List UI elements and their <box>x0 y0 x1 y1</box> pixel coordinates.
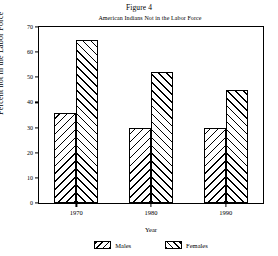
y-tick-mark <box>35 102 39 103</box>
y-axis-label: Percent not in the Labor Force <box>0 11 5 115</box>
y-tick-label: 0 <box>30 200 33 206</box>
figure-container: Figure 4 American Indians Not in the Lab… <box>0 0 278 256</box>
y-tick-mark <box>35 52 39 53</box>
y-tick-mark <box>35 177 39 178</box>
legend-swatch-females <box>165 241 182 249</box>
legend-entry-males: Males <box>94 241 131 249</box>
y-tick-mark <box>35 77 39 78</box>
y-tick-mark <box>35 152 39 153</box>
legend-swatch-males <box>94 241 111 249</box>
bar-females-1990 <box>226 90 248 203</box>
y-tick-mark <box>35 26 39 27</box>
x-axis-label: Year <box>38 226 264 233</box>
chart-title: American Indians Not in the Labor Force <box>30 15 270 21</box>
y-tick-mark <box>35 202 39 203</box>
legend-label-males: Males <box>115 242 131 249</box>
x-tick-mark <box>225 203 226 207</box>
legend-entry-females: Females <box>165 241 208 249</box>
x-tick-mark <box>150 203 151 207</box>
x-tick-label: 1990 <box>219 209 232 216</box>
y-tick-label: 40 <box>27 99 33 105</box>
bar-males-1970 <box>54 113 76 204</box>
bar-females-1970 <box>76 40 98 203</box>
x-tick-label: 1980 <box>145 209 158 216</box>
y-tick-label: 70 <box>27 24 33 30</box>
x-tick-mark <box>76 203 77 207</box>
bar-males-1990 <box>204 128 226 203</box>
y-tick-label: 60 <box>27 49 33 55</box>
bar-females-1980 <box>151 72 173 203</box>
y-tick-mark <box>35 127 39 128</box>
y-tick-label: 10 <box>27 175 33 181</box>
legend-label-females: Females <box>186 242 208 249</box>
y-tick-label: 30 <box>27 125 33 131</box>
chart-legend: MalesFemales <box>38 238 264 252</box>
bar-males-1980 <box>129 128 151 203</box>
y-tick-label: 50 <box>27 74 33 80</box>
figure-number-caption: Figure 4 <box>0 3 278 12</box>
y-tick-label: 20 <box>27 150 33 156</box>
x-tick-label: 1970 <box>70 209 83 216</box>
plot-area: 010203040506070 197019801990 <box>38 26 264 204</box>
